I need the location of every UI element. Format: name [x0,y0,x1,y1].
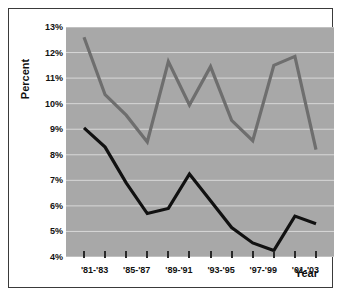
series-line-upper-series [84,37,316,149]
plot-area [66,27,334,257]
chart-frame: Percent 4%5%6%7%8%9%10%11%12%13% '81-'83… [8,8,333,288]
x-tick-label: '81-'83 [81,265,108,275]
y-tick-label: 10% [27,99,63,109]
gridlines [66,27,334,257]
y-tick-label: 12% [27,48,63,58]
series-layer [84,37,316,250]
x-tick-mark [146,251,148,258]
plot-svg [66,27,334,257]
x-tick-label: '93-'95 [207,265,234,275]
chart-figure: Percent 4%5%6%7%8%9%10%11%12%13% '81-'83… [0,0,343,298]
x-tick-mark [125,251,127,258]
y-tick-label: 6% [27,201,63,211]
y-tick-label: 11% [27,73,63,83]
x-tick-mark [294,251,296,258]
y-tick-label: 7% [27,175,63,185]
y-tick-label: 9% [27,124,63,134]
y-tick-label: 13% [27,22,63,32]
x-axis-title: Year [295,267,318,279]
x-tick-label: '89-'91 [165,265,192,275]
x-tick-mark [252,251,254,258]
x-axis-tick-marks [66,250,334,258]
x-tick-mark [104,251,106,258]
y-tick-label: 4% [27,252,63,262]
x-tick-mark [273,251,275,258]
series-line-lower-series [84,128,316,251]
x-tick-label: '85-'87 [123,265,150,275]
x-tick-mark [315,251,317,258]
x-tick-mark [210,251,212,258]
x-tick-mark [83,251,85,258]
x-tick-mark [167,251,169,258]
y-tick-label: 8% [27,150,63,160]
x-tick-label: '97-'99 [250,265,277,275]
x-tick-mark [231,251,233,258]
x-tick-mark [188,251,190,258]
y-tick-label: 5% [27,226,63,236]
y-axis-tick-labels: 4%5%6%7%8%9%10%11%12%13% [19,9,63,287]
